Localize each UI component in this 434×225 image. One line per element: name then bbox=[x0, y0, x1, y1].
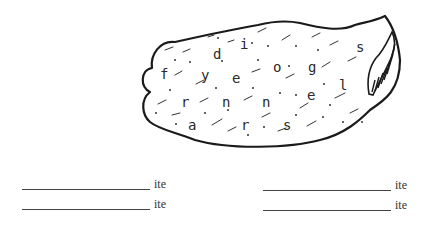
puzzle-letter: n bbox=[262, 95, 270, 109]
rock-illustration bbox=[0, 0, 434, 225]
puzzle-letter: o bbox=[273, 60, 281, 74]
puzzle-letter: s bbox=[356, 40, 364, 54]
puzzle-letter: r bbox=[181, 95, 189, 109]
answer-suffix: ite bbox=[395, 199, 407, 211]
answer-blank[interactable] bbox=[22, 199, 150, 210]
puzzle-letter: e bbox=[307, 88, 315, 102]
puzzle-letter: s bbox=[283, 118, 291, 132]
puzzle-letter: g bbox=[308, 60, 316, 74]
puzzle-letter: r bbox=[241, 118, 249, 132]
answer-blank[interactable] bbox=[263, 180, 391, 191]
answer-row-3: ite bbox=[263, 179, 407, 191]
answer-suffix: ite bbox=[154, 198, 166, 210]
answer-row-4: ite bbox=[263, 199, 407, 211]
puzzle-letter: n bbox=[222, 95, 230, 109]
puzzle-letter: y bbox=[201, 68, 209, 82]
puzzle-letter: d bbox=[213, 47, 221, 61]
answer-suffix: ite bbox=[395, 179, 407, 191]
answer-blank[interactable] bbox=[263, 200, 391, 211]
puzzle-letter: f bbox=[160, 67, 168, 81]
puzzle-letter: l bbox=[339, 78, 347, 92]
answer-row-1: ite bbox=[22, 178, 166, 190]
puzzle-letter: e bbox=[232, 71, 240, 85]
answer-row-2: ite bbox=[22, 198, 166, 210]
puzzle-letter: i bbox=[240, 37, 248, 51]
answer-suffix: ite bbox=[154, 178, 166, 190]
answer-blank[interactable] bbox=[22, 179, 150, 190]
puzzle-letter: a bbox=[188, 118, 196, 132]
